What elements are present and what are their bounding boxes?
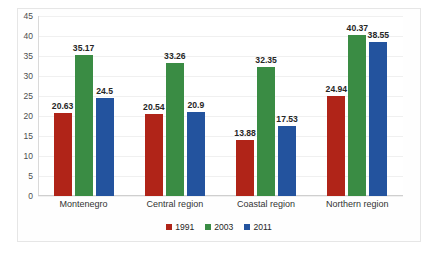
bar-value-label: 20.9 [188,100,205,110]
bar-slot: 33.26 [166,16,184,196]
bar-value-label: 20.63 [52,101,74,111]
legend-swatch-icon [205,224,211,230]
bar-value-label: 13.88 [234,128,256,138]
legend-item-2011: 2011 [244,222,271,232]
y-axis-tick-label: 35 [24,51,33,61]
legend-label: 2003 [214,222,233,232]
legend-swatch-icon [166,224,172,230]
bar-value-label: 40.37 [347,23,369,33]
bar-slot: 20.9 [187,16,205,196]
bar-groups: 20.6335.1724.520.5433.2620.913.8832.3517… [38,16,403,196]
y-axis-tick-label: 5 [28,171,33,181]
category-label: Central region [129,199,220,209]
y-axis-tick-label: 25 [24,91,33,101]
category-label: Northern region [312,199,403,209]
bar-group: 20.6335.1724.5 [38,16,129,196]
bar-1991 [145,114,163,196]
chart-legend: 199120032011 [17,222,421,232]
bar-2003 [75,55,93,196]
bar-slot: 38.55 [369,16,387,196]
y-axis-tick-label: 15 [24,131,33,141]
bar-2011 [96,98,114,196]
bar-value-label: 38.55 [368,30,390,40]
bar-2011 [187,112,205,196]
bar-2003 [166,63,184,196]
bar-2003 [257,67,275,196]
gridline [38,196,403,197]
bar-value-label: 24.5 [96,86,113,96]
bar-2011 [278,126,296,196]
bar-slot: 32.35 [257,16,275,196]
bar-2011 [369,42,387,196]
y-axis-tick-label: 30 [24,71,33,81]
x-axis-category-labels: MontenegroCentral regionCoastal regionNo… [38,199,403,209]
bar-1991 [54,113,72,196]
bar-chart-figure: 454035302520151050 20.6335.1724.520.5433… [0,0,438,254]
bar-slot: 17.53 [278,16,296,196]
legend-item-2003: 2003 [205,222,233,232]
bar-1991 [236,140,254,196]
y-axis-tick-label: 10 [24,151,33,161]
bar-slot: 20.63 [54,16,72,196]
y-axis-tick-labels: 454035302520151050 [0,16,33,196]
bar-value-label: 32.35 [255,55,277,65]
y-axis-tick-label: 40 [24,31,33,41]
y-axis-tick-label: 0 [28,191,33,201]
category-label: Coastal region [221,199,312,209]
bar-group: 20.5433.2620.9 [129,16,220,196]
bar-slot: 24.94 [327,16,345,196]
category-label: Montenegro [38,199,129,209]
bar-value-label: 20.54 [143,102,165,112]
legend-swatch-icon [244,224,250,230]
bar-value-label: 17.53 [276,114,298,124]
bar-value-label: 35.17 [73,43,95,53]
legend-label: 1991 [175,222,194,232]
bar-value-label: 33.26 [164,51,186,61]
bar-slot: 13.88 [236,16,254,196]
y-axis-tick-label: 20 [24,111,33,121]
bar-slot: 40.37 [348,16,366,196]
bar-slot: 24.5 [96,16,114,196]
bar-slot: 35.17 [75,16,93,196]
bar-1991 [327,96,345,196]
bar-2003 [348,35,366,196]
bar-group: 13.8832.3517.53 [221,16,312,196]
y-axis-tick-label: 45 [24,11,33,21]
legend-label: 2011 [253,222,271,232]
bar-group: 24.9440.3738.55 [312,16,403,196]
legend-item-1991: 1991 [166,222,194,232]
bar-slot: 20.54 [145,16,163,196]
bar-value-label: 24.94 [326,84,348,94]
